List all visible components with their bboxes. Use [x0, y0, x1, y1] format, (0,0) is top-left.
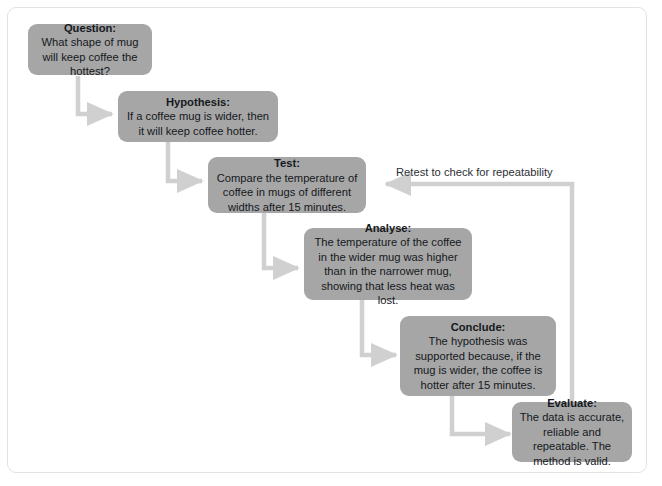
node-conclude-body: The hypothesis was supported because, if… — [406, 334, 550, 392]
node-test[interactable]: Test: Compare the temperature of coffee … — [208, 157, 366, 213]
node-evaluate[interactable]: Evaluate: The data is accurate, reliable… — [512, 402, 632, 462]
node-analyse[interactable]: Analyse: The temperature of the coffee i… — [304, 228, 472, 300]
node-conclude-title: Conclude: — [451, 320, 506, 335]
node-question[interactable]: Question: What shape of mug will keep co… — [28, 24, 152, 75]
node-test-title: Test: — [274, 156, 300, 171]
diagram-canvas: Question: What shape of mug will keep co… — [0, 0, 662, 486]
node-analyse-title: Analyse: — [365, 221, 412, 236]
node-hypothesis-title: Hypothesis: — [166, 95, 230, 110]
node-question-title: Question: — [64, 21, 116, 36]
node-question-body: What shape of mug will keep coffee the h… — [34, 35, 146, 78]
node-hypothesis-body: If a coffee mug is wider, then it will k… — [124, 109, 272, 138]
node-conclude[interactable]: Conclude: The hypothesis was supported b… — [400, 316, 556, 396]
node-evaluate-title: Evaluate: — [547, 396, 597, 411]
retest-loop-label: Retest to check for repeatability — [396, 165, 553, 179]
node-evaluate-body: The data is accurate, reliable and repea… — [518, 410, 626, 468]
node-hypothesis[interactable]: Hypothesis: If a coffee mug is wider, th… — [118, 91, 278, 142]
node-analyse-body: The temperature of the coffee in the wid… — [310, 235, 466, 307]
node-test-body: Compare the temperature of coffee in mug… — [214, 171, 360, 214]
